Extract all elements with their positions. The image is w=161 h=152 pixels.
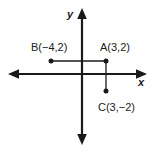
coordinate-plane-figure: y x B(−4,2) A(3,2) C(3,−2) xyxy=(0,0,161,152)
x-axis-left-arrowhead xyxy=(8,69,19,79)
x-axis-label: x xyxy=(137,76,145,88)
y-axis-top-arrowhead xyxy=(77,8,87,19)
x-axis xyxy=(8,69,147,79)
coordinate-plane-svg: y x B(−4,2) A(3,2) C(3,−2) xyxy=(0,0,161,152)
point-C-marker xyxy=(104,89,109,94)
point-B-label: B(−4,2) xyxy=(31,41,67,53)
y-axis-bottom-arrowhead xyxy=(77,134,87,145)
points-group xyxy=(49,59,109,94)
point-B-marker xyxy=(49,59,54,64)
y-axis-label: y xyxy=(66,8,74,20)
point-A-marker xyxy=(104,59,109,64)
y-axis xyxy=(77,8,87,145)
point-C-label: C(3,−2) xyxy=(98,101,135,113)
segments-group xyxy=(51,61,106,91)
point-A-label: A(3,2) xyxy=(100,41,130,53)
